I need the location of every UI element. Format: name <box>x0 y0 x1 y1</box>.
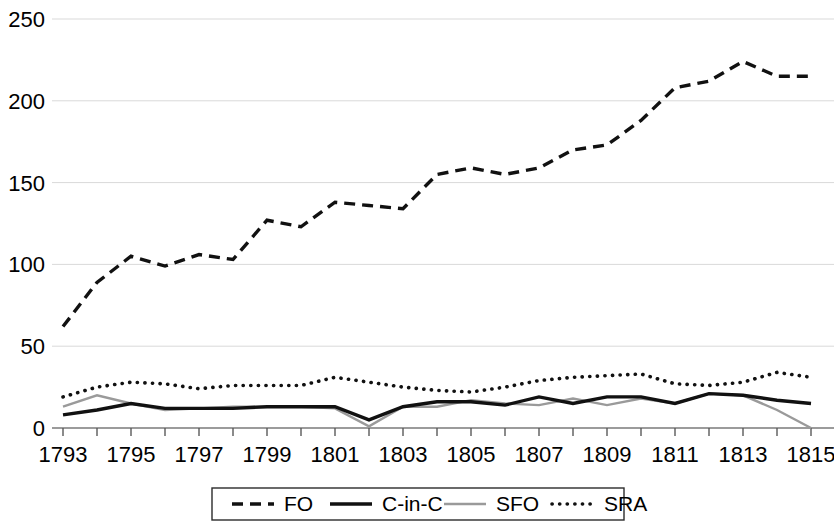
x-axis-tick-label: 1805 <box>447 442 496 467</box>
y-axis-tick-label: 100 <box>8 252 45 277</box>
x-axis-tick-label: 1809 <box>583 442 632 467</box>
x-axis-tick-label: 1795 <box>107 442 156 467</box>
x-axis-tick-label: 1813 <box>719 442 768 467</box>
legend-label-c-in-c: C-in-C <box>382 492 443 515</box>
chart-legend: FOC-in-CSFOSRA <box>212 488 647 520</box>
x-axis-tick-label: 1811 <box>651 442 698 467</box>
series-line-sfo <box>63 394 811 428</box>
y-axis-tick-label: 250 <box>8 7 45 32</box>
y-axis-tick-label: 0 <box>33 416 45 441</box>
x-axis-tick-label: 1803 <box>379 442 428 467</box>
y-axis-tick-label: 200 <box>8 89 45 114</box>
x-axis-tick-label: 1799 <box>243 442 292 467</box>
x-axis-tick-label: 1793 <box>39 442 88 467</box>
chart-canvas: 050100150200250 179317951797179918011803… <box>0 0 834 524</box>
x-axis-tick-label: 1801 <box>311 442 360 467</box>
line-chart: 050100150200250 179317951797179918011803… <box>0 0 834 524</box>
x-axis-tick-label: 1797 <box>175 442 224 467</box>
x-axis-tick-label: 1807 <box>515 442 564 467</box>
x-axis-tick-labels: 1793179517971799180118031805180718091811… <box>39 442 834 467</box>
x-axis-tick-label: 1815 <box>787 442 834 467</box>
y-axis-tick-labels: 050100150200250 <box>8 7 45 441</box>
gridlines <box>52 19 834 346</box>
series-line-sra <box>63 372 811 397</box>
x-axis <box>52 428 834 436</box>
legend-label-sfo: SFO <box>496 492 539 515</box>
y-axis-tick-label: 50 <box>21 334 45 359</box>
data-series-layer <box>63 62 811 428</box>
legend-label-sra: SRA <box>604 492 647 515</box>
legend-label-fo: FO <box>284 492 313 515</box>
y-axis-tick-label: 150 <box>8 171 45 196</box>
